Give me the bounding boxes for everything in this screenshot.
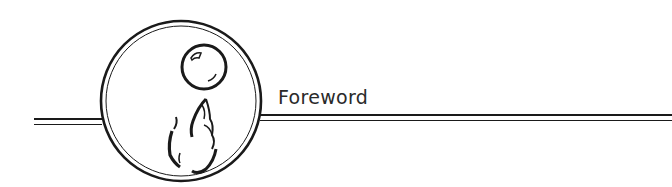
left-rule-thin <box>34 124 102 125</box>
hand-holding-crystal-ball-icon <box>98 19 264 185</box>
right-rule-thick <box>258 114 672 116</box>
left-rule-thick <box>34 118 104 120</box>
right-rule-thin <box>260 120 672 121</box>
chapter-title: Foreword <box>278 86 368 108</box>
